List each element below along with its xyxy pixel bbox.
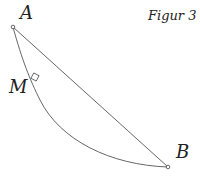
point-b [166, 165, 170, 169]
figure-3-diagram: A B M Figur 3 [0, 0, 200, 177]
figure-title: Figur 3 [148, 8, 197, 23]
geometry-drawing [0, 0, 200, 177]
point-a [11, 25, 15, 29]
label-m: M [9, 76, 27, 97]
right-angle-marker [31, 73, 39, 81]
label-a: A [20, 2, 33, 23]
label-b: B [176, 141, 189, 162]
chord-ab [13, 27, 168, 167]
